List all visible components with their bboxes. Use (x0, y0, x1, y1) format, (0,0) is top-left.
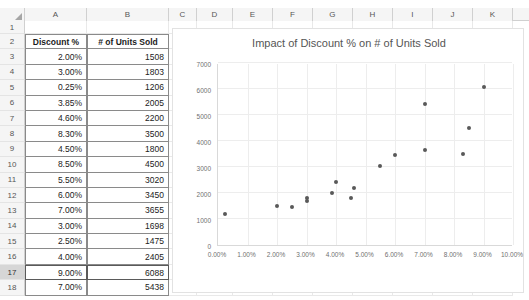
excel-worksheet: ABCDEFGHIJK 123456789101112131415161718 … (0, 0, 529, 300)
x-axis-tick-label: 2.00% (267, 251, 285, 258)
cell-A13-discount[interactable]: 7.00% (25, 203, 87, 218)
row-header-15[interactable]: 15 (0, 234, 25, 249)
row-header-9[interactable]: 9 (0, 142, 25, 157)
cell-B17-units[interactable]: 6088 (87, 265, 169, 280)
row-header-4[interactable]: 4 (0, 65, 25, 80)
cell-B8-units[interactable]: 3500 (87, 126, 169, 141)
cell-B3-units[interactable]: 1508 (87, 49, 169, 64)
cell-B10-units[interactable]: 4500 (87, 157, 169, 172)
y-axis-tick-label: 4000 (173, 139, 211, 146)
cell-B9-units[interactable]: 1800 (87, 142, 169, 157)
cell-A9-discount[interactable]: 4.50% (25, 142, 87, 157)
cell-A6-discount[interactable]: 3.85% (25, 96, 87, 111)
row-header-13[interactable]: 13 (0, 203, 25, 218)
scatter-point[interactable] (461, 152, 465, 156)
gridline-vertical (454, 64, 455, 245)
column-header-a[interactable]: A (25, 8, 87, 21)
y-axis-tick-label: 0 (173, 243, 211, 250)
column-header-h[interactable]: H (353, 8, 393, 21)
cell-A15-discount[interactable]: 2.50% (25, 234, 87, 249)
y-axis-tick-label: 3000 (173, 165, 211, 172)
row-header-12[interactable]: 12 (0, 188, 25, 203)
scatter-point[interactable] (290, 205, 294, 209)
column-header-d[interactable]: D (197, 8, 233, 21)
cell-A5-discount[interactable]: 0.25% (25, 80, 87, 95)
column-header-g[interactable]: G (313, 8, 353, 21)
row-header-7[interactable]: 7 (0, 111, 25, 126)
column-header-k[interactable]: K (473, 8, 513, 21)
cell-A12-discount[interactable]: 6.00% (25, 188, 87, 203)
select-all-corner[interactable] (0, 8, 25, 21)
cell-B18-units[interactable]: 5438 (87, 280, 169, 295)
row-header-1[interactable]: 1 (0, 21, 25, 34)
scatter-chart[interactable]: Impact of Discount % on # of Units Sold … (172, 28, 524, 293)
scatter-point[interactable] (349, 196, 353, 200)
cell-A1[interactable] (25, 21, 87, 34)
scatter-point[interactable] (467, 126, 471, 130)
chart-plot-wrapper: 01000200030004000500060007000 0.00%1.00%… (173, 59, 525, 291)
row-header-8[interactable]: 8 (0, 126, 25, 141)
row-header-6[interactable]: 6 (0, 96, 25, 111)
x-axis-tick-label: 9.00% (473, 251, 491, 258)
column-header-c[interactable]: C (169, 8, 197, 21)
cell-A3-discount[interactable]: 2.00% (25, 49, 87, 64)
scatter-point[interactable] (352, 186, 356, 190)
gridline-vertical (425, 64, 426, 245)
column-header-j[interactable]: J (433, 8, 473, 21)
chart-plot-area (217, 64, 512, 246)
cell-B11-units[interactable]: 3020 (87, 173, 169, 188)
cell-A8-discount[interactable]: 8.30% (25, 126, 87, 141)
row-header-11[interactable]: 11 (0, 173, 25, 188)
cell-A18-discount[interactable]: 7.00% (25, 280, 87, 295)
row-header-17[interactable]: 17 (0, 265, 25, 280)
cell-B13-units[interactable]: 3655 (87, 203, 169, 218)
chart-title: Impact of Discount % on # of Units Sold (173, 37, 525, 49)
scatter-point[interactable] (223, 212, 227, 216)
cell-A7-discount[interactable]: 4.60% (25, 111, 87, 126)
column-header-b[interactable]: B (87, 8, 169, 21)
column-header-e[interactable]: E (233, 8, 273, 21)
y-axis-tick-label: 2000 (173, 191, 211, 198)
cell-A10-discount[interactable]: 8.50% (25, 157, 87, 172)
x-axis-tick-label: 4.00% (326, 251, 344, 258)
scatter-point[interactable] (334, 180, 338, 184)
scatter-point[interactable] (482, 85, 486, 89)
x-axis-tick-label: 3.00% (296, 251, 314, 258)
scatter-point[interactable] (423, 148, 427, 152)
gridline-vertical (248, 64, 249, 245)
cell-B1[interactable] (87, 21, 169, 34)
column-header-i[interactable]: I (393, 8, 433, 21)
row-header-18[interactable]: 18 (0, 280, 25, 295)
cell-B2-units-header[interactable]: # of Units Sold (87, 34, 169, 49)
cell-B4-units[interactable]: 1803 (87, 65, 169, 80)
cell-B14-units[interactable]: 1698 (87, 219, 169, 234)
cell-B12-units[interactable]: 3450 (87, 188, 169, 203)
cell-B5-units[interactable]: 1206 (87, 80, 169, 95)
row-header-2[interactable]: 2 (0, 34, 25, 49)
cell-A4-discount[interactable]: 3.00% (25, 65, 87, 80)
cell-A16-discount[interactable]: 4.00% (25, 249, 87, 264)
cell-B16-units[interactable]: 2405 (87, 249, 169, 264)
scatter-point[interactable] (330, 191, 334, 195)
row-header-5[interactable]: 5 (0, 80, 25, 95)
x-axis-tick-label: 5.00% (355, 251, 373, 258)
row-header-16[interactable]: 16 (0, 249, 25, 264)
scatter-point[interactable] (275, 204, 279, 208)
cell-B15-units[interactable]: 1475 (87, 234, 169, 249)
row-header-10[interactable]: 10 (0, 157, 25, 172)
scatter-point[interactable] (423, 102, 427, 106)
cell-A11-discount[interactable]: 5.50% (25, 173, 87, 188)
scatter-point[interactable] (305, 199, 309, 203)
cell-B7-units[interactable]: 2200 (87, 111, 169, 126)
column-header-f[interactable]: F (273, 8, 313, 21)
cell-A17-discount[interactable]: 9.00% (25, 265, 87, 280)
scatter-point[interactable] (378, 164, 382, 168)
x-axis-tick-label: 7.00% (414, 251, 432, 258)
y-axis-tick-label: 5000 (173, 113, 211, 120)
cell-B6-units[interactable]: 2005 (87, 96, 169, 111)
scatter-point[interactable] (393, 153, 397, 157)
row-header-3[interactable]: 3 (0, 49, 25, 64)
cell-A14-discount[interactable]: 3.00% (25, 219, 87, 234)
row-header-14[interactable]: 14 (0, 219, 25, 234)
cell-A2-discount-header[interactable]: Discount % (25, 34, 87, 49)
